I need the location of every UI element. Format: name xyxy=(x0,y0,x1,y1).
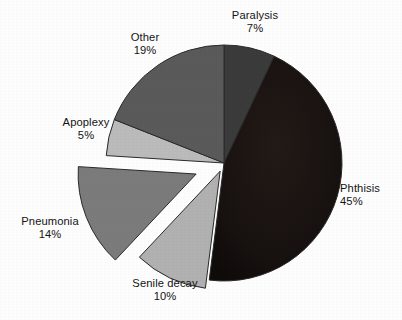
slice-label-phthisis-name: Phthisis xyxy=(340,182,402,195)
slice-label-phthisis-percent: 45% xyxy=(340,195,402,208)
slice-label-apoplexy-name: Apoplexy xyxy=(42,116,130,129)
slice-label-pneumonia-percent: 14% xyxy=(4,228,96,241)
pie-chart-figure: Paralysis 7% Other 19% Apoplexy 5% Pneum… xyxy=(0,0,402,320)
slice-label-senile-decay: Senile decay 10% xyxy=(112,277,218,304)
slice-label-pneumonia: Pneumonia 14% xyxy=(4,215,96,242)
slice-label-pneumonia-name: Pneumonia xyxy=(4,215,96,228)
slice-label-senile-decay-percent: 10% xyxy=(112,290,218,303)
slice-label-paralysis-percent: 7% xyxy=(206,22,304,35)
slice-label-phthisis: Phthisis 45% xyxy=(340,182,402,209)
slice-label-apoplexy: Apoplexy 5% xyxy=(42,116,130,143)
slice-label-other: Other 19% xyxy=(104,31,186,58)
pie-chart-canvas xyxy=(0,0,402,320)
slice-label-paralysis-name: Paralysis xyxy=(206,9,304,22)
slice-label-other-percent: 19% xyxy=(104,44,186,57)
slice-label-other-name: Other xyxy=(104,31,186,44)
slice-label-apoplexy-percent: 5% xyxy=(42,129,130,142)
pie-slice-group xyxy=(78,45,342,288)
slice-label-paralysis: Paralysis 7% xyxy=(206,9,304,36)
slice-label-senile-decay-name: Senile decay xyxy=(112,277,218,290)
